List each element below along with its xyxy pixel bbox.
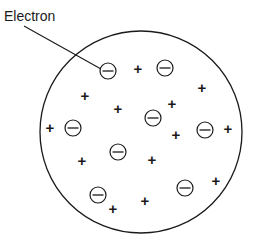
electron-leader-line-group [24, 26, 101, 69]
plus-3: + [81, 87, 90, 104]
electron-8 [177, 180, 193, 196]
plus-11: + [212, 172, 221, 189]
atomic-model-diagram: +++++++++++++ Electron [0, 0, 263, 248]
plus-10: + [148, 151, 157, 168]
plus-13: + [141, 192, 150, 209]
plus-5: + [168, 95, 177, 112]
electron-2 [157, 60, 173, 76]
plus-8: + [224, 120, 233, 137]
plus-9: + [78, 152, 87, 169]
electron-3 [145, 110, 161, 126]
plus-12: + [109, 200, 118, 217]
electron-1 [100, 63, 116, 79]
electron-label: Electron [4, 8, 55, 24]
electron-4 [65, 120, 81, 136]
electron-5 [197, 122, 213, 138]
plus-7: + [172, 126, 181, 143]
plus-4: + [114, 100, 123, 117]
electrons-group [65, 60, 213, 203]
plus-1: + [134, 60, 143, 77]
plus-6: + [46, 119, 55, 136]
diagram-canvas: +++++++++++++ Electron [0, 0, 263, 248]
electron-7 [90, 187, 106, 203]
electron-6 [110, 144, 126, 160]
plus-2: + [198, 79, 207, 96]
electron-label-group: Electron [4, 8, 55, 24]
leader-line [24, 26, 101, 69]
